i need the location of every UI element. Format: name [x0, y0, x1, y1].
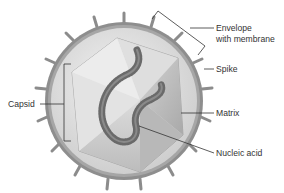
label-matrix: Matrix — [216, 108, 239, 118]
spike-icon — [52, 144, 59, 151]
label-capsid: Capsid — [8, 99, 35, 109]
spike-icon — [94, 17, 97, 27]
spike-icon — [66, 33, 73, 40]
spike-icon — [36, 88, 46, 89]
spike-icon — [175, 33, 182, 40]
spike-icon — [107, 179, 108, 189]
spike-icon — [38, 117, 47, 121]
spike-icon — [46, 59, 55, 63]
label-envelope-membrane: with membrane — [216, 34, 275, 44]
spike-icon — [140, 179, 141, 189]
label-nucleic-acid: Nucleic acid — [216, 148, 262, 158]
spike-icon — [202, 88, 212, 89]
spike-icon — [168, 166, 173, 175]
spike-icon — [201, 117, 210, 121]
label-spike: Spike — [216, 64, 238, 74]
label-envelope: Envelope — [216, 23, 252, 33]
spike-icon — [193, 59, 202, 63]
virus-diagram: Envelope with membrane Spike Capsid Matr… — [0, 0, 284, 193]
spike-icon — [75, 166, 80, 175]
